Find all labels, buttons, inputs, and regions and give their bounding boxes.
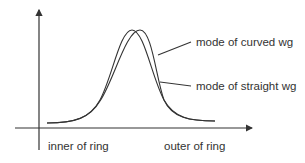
straight-wg-mode-curve bbox=[47, 30, 215, 123]
outer-ring-label: outer of ring bbox=[164, 141, 225, 153]
curved-wg-label: mode of curved wg bbox=[196, 37, 293, 49]
curved-wg-mode-curve bbox=[47, 30, 215, 123]
inner-ring-label: inner of ring bbox=[48, 141, 109, 153]
curved-wg-pointer bbox=[158, 42, 191, 55]
straight-wg-label: mode of straight wg bbox=[196, 81, 296, 93]
straight-wg-pointer bbox=[160, 82, 191, 86]
